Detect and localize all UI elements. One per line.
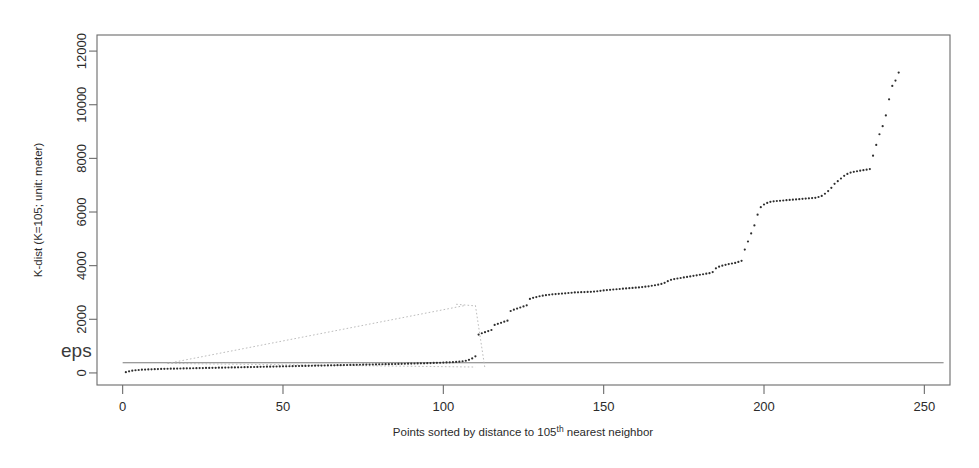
data-point bbox=[615, 288, 617, 290]
data-point bbox=[805, 198, 807, 200]
data-point bbox=[292, 365, 294, 367]
data-point bbox=[433, 362, 435, 364]
data-point bbox=[324, 364, 326, 366]
data-point bbox=[689, 275, 691, 277]
data-point bbox=[333, 364, 335, 366]
y-tick-label: 4000 bbox=[74, 251, 89, 280]
data-point bbox=[410, 363, 412, 365]
data-point bbox=[737, 261, 739, 263]
data-point bbox=[154, 368, 156, 370]
data-point bbox=[612, 288, 614, 290]
data-point bbox=[340, 364, 342, 366]
data-point bbox=[465, 360, 467, 362]
data-point bbox=[795, 198, 797, 200]
data-point bbox=[535, 296, 537, 298]
data-point bbox=[458, 361, 460, 363]
data-point bbox=[728, 263, 730, 265]
data-point bbox=[647, 285, 649, 287]
callout-leader-line bbox=[475, 305, 485, 369]
data-point bbox=[128, 370, 130, 372]
x-tick-label: 100 bbox=[432, 399, 454, 414]
data-point bbox=[567, 292, 569, 294]
data-point bbox=[894, 79, 896, 81]
data-point bbox=[420, 362, 422, 364]
data-point bbox=[426, 362, 428, 364]
data-point bbox=[718, 266, 720, 268]
data-point bbox=[166, 368, 168, 370]
data-point bbox=[320, 364, 322, 366]
data-point bbox=[631, 287, 633, 289]
data-point bbox=[471, 357, 473, 359]
y-axis: 020004000600080001000012000 bbox=[74, 33, 97, 377]
data-point bbox=[240, 366, 242, 368]
data-point bbox=[266, 366, 268, 368]
data-point bbox=[789, 199, 791, 201]
data-point bbox=[529, 298, 531, 300]
data-point bbox=[481, 332, 483, 334]
data-point bbox=[452, 361, 454, 363]
y-tick-label: 2000 bbox=[74, 305, 89, 334]
x-tick-label: 250 bbox=[913, 399, 935, 414]
data-point bbox=[641, 286, 643, 288]
data-point bbox=[667, 280, 669, 282]
data-point bbox=[298, 365, 300, 367]
data-point bbox=[837, 180, 839, 182]
data-point bbox=[882, 125, 884, 127]
data-point bbox=[199, 367, 201, 369]
data-point bbox=[676, 277, 678, 279]
data-point bbox=[769, 201, 771, 203]
data-point bbox=[484, 331, 486, 333]
data-point bbox=[526, 304, 528, 306]
data-point bbox=[599, 290, 601, 292]
data-point bbox=[708, 272, 710, 274]
data-point bbox=[696, 274, 698, 276]
data-point bbox=[250, 366, 252, 368]
data-point bbox=[221, 367, 223, 369]
data-point bbox=[436, 362, 438, 364]
data-point bbox=[554, 293, 556, 295]
data-point bbox=[362, 364, 364, 366]
data-point bbox=[231, 366, 233, 368]
data-point bbox=[413, 362, 415, 364]
y-axis-title: K-dist (K=105; unit: meter) bbox=[32, 143, 44, 278]
data-point bbox=[622, 288, 624, 290]
data-point bbox=[580, 291, 582, 293]
data-point bbox=[205, 367, 207, 369]
data-point bbox=[891, 85, 893, 87]
x-axis-title: Points sorted by distance to 105th neare… bbox=[393, 424, 653, 438]
data-point bbox=[724, 264, 726, 266]
data-point bbox=[314, 365, 316, 367]
data-point bbox=[875, 144, 877, 146]
data-point bbox=[375, 363, 377, 365]
data-point bbox=[330, 364, 332, 366]
data-point bbox=[811, 197, 813, 199]
data-point bbox=[731, 262, 733, 264]
data-point bbox=[779, 200, 781, 202]
data-point bbox=[625, 287, 627, 289]
data-point bbox=[856, 170, 858, 172]
data-point bbox=[763, 203, 765, 205]
data-point bbox=[545, 294, 547, 296]
data-point bbox=[439, 362, 441, 364]
y-tick-label: 0 bbox=[74, 369, 89, 376]
k-dist-scatter-plot: 020004000600080001000012000 050100150200… bbox=[0, 0, 979, 468]
data-point bbox=[275, 365, 277, 367]
data-point bbox=[513, 309, 515, 311]
eps-annotation-label: eps bbox=[61, 340, 92, 361]
data-point bbox=[833, 183, 835, 185]
data-point bbox=[490, 329, 492, 331]
data-point bbox=[760, 206, 762, 208]
data-point bbox=[295, 365, 297, 367]
data-point bbox=[327, 364, 329, 366]
data-point bbox=[372, 363, 374, 365]
x-tick-label: 200 bbox=[753, 399, 775, 414]
data-point bbox=[227, 366, 229, 368]
data-point bbox=[664, 282, 666, 284]
callout-leader-line bbox=[456, 304, 475, 306]
data-point bbox=[801, 198, 803, 200]
y-tick-label: 12000 bbox=[74, 33, 89, 69]
data-point bbox=[750, 232, 752, 234]
chart-figure: 020004000600080001000012000 050100150200… bbox=[0, 0, 979, 468]
data-point bbox=[596, 290, 598, 292]
data-point bbox=[548, 294, 550, 296]
